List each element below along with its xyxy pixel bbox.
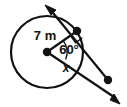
geometry-diagram: 7 m 60° x [0,0,127,107]
external-point-dot [104,76,112,84]
geometry-canvas: 7 m 60° x [0,0,127,107]
tangent-point-dot [73,27,81,35]
unknown-angle-label: x [62,61,71,75]
center-point-dot [43,48,51,56]
angle-measure-label: 60° [59,42,79,57]
radius-measure-label: 7 m [34,28,56,43]
